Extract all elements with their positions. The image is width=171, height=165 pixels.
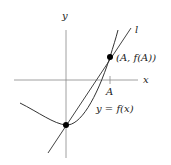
- curve-label: y = f(x): [95, 103, 134, 114]
- x-axis-label: x: [143, 74, 149, 85]
- line-l: [48, 28, 131, 153]
- diagram-canvas: y x l (A, f(A)) A y = f(x): [0, 0, 171, 165]
- point-intercept: [63, 122, 69, 128]
- tick-a-label: A: [105, 86, 113, 97]
- y-axis-label: y: [61, 10, 68, 21]
- line-l-label: l: [135, 24, 138, 35]
- point-a-fa-label: (A, f(A)): [116, 52, 156, 63]
- point-a-fa: [107, 54, 113, 60]
